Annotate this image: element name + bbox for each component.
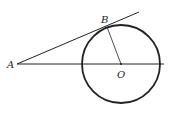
center-point-o <box>120 63 122 65</box>
geometry-diagram: A B O <box>0 0 173 113</box>
label-a: A <box>6 59 14 70</box>
label-b: B <box>100 14 108 25</box>
tangent-line-ab <box>17 12 139 64</box>
label-o: O <box>117 69 125 80</box>
radius-ob <box>107 27 121 64</box>
diagram-svg: A B O <box>0 0 173 113</box>
